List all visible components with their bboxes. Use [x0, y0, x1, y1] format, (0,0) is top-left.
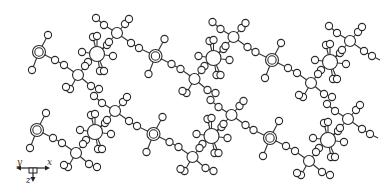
crystal-structure-diagram: y x z — [0, 0, 392, 192]
arrow-z-icon — [31, 177, 36, 182]
axis-label-x: x — [47, 157, 52, 167]
coordinate-axes-icon — [16, 166, 50, 183]
axes-legend: y x z — [0, 0, 392, 192]
axis-label-z: z — [25, 175, 31, 185]
axis-label-y: y — [16, 157, 23, 167]
